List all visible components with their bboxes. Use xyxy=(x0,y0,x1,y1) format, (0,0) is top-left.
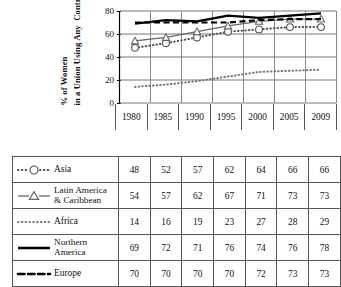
table-cell: 78 xyxy=(309,235,341,261)
legend-inner: Africa xyxy=(16,209,118,234)
legend-marker-open-triangle-solid xyxy=(16,189,52,203)
table-row: Europe70707070727373 xyxy=(13,261,341,287)
legend-label-line-2: America xyxy=(54,248,118,258)
x-axis-label-2000: 2000 xyxy=(242,104,274,130)
table-cell: 57 xyxy=(150,183,182,209)
legend-cell-africa: Africa xyxy=(13,209,119,235)
x-axis-label-1980: 1980 xyxy=(116,104,148,130)
table-cell: 72 xyxy=(245,261,277,287)
table-cell: 29 xyxy=(309,209,341,235)
table-cell: 66 xyxy=(309,157,341,183)
table-cell: 66 xyxy=(277,157,309,183)
x-axis-label-1985: 1985 xyxy=(148,104,180,130)
table-cell: 69 xyxy=(119,235,151,261)
series-line xyxy=(135,70,321,87)
table-cell: 73 xyxy=(309,183,341,209)
legend-marker-solid-thick xyxy=(16,241,52,255)
table-cell: 14 xyxy=(119,209,151,235)
table-cell: 27 xyxy=(245,209,277,235)
data-point-marker xyxy=(132,44,139,51)
table-cell: 70 xyxy=(119,261,151,287)
table-cell: 19 xyxy=(182,209,214,235)
data-point-marker xyxy=(318,24,325,31)
legend-cell-asia: Asia xyxy=(13,157,119,183)
table-row: Asia48525762646666 xyxy=(13,157,341,183)
table-cell: 62 xyxy=(182,183,214,209)
table-cell: 71 xyxy=(245,183,277,209)
legend-inner: Latin America& Caribbean xyxy=(16,183,118,208)
legend-label: Latin America& Caribbean xyxy=(52,186,118,205)
legend-cell-latin-america-caribbean: Latin America& Caribbean xyxy=(13,183,119,209)
table-cell: 71 xyxy=(182,235,214,261)
x-axis-label-1995: 1995 xyxy=(211,104,243,130)
table-cell: 67 xyxy=(214,183,246,209)
x-axis-label-1990: 1990 xyxy=(179,104,211,130)
x-axis-label-2009: 2009 xyxy=(305,104,336,130)
table-cell: 54 xyxy=(119,183,151,209)
table-cell: 76 xyxy=(277,235,309,261)
table-cell: 72 xyxy=(150,235,182,261)
table-cell: 73 xyxy=(277,261,309,287)
table-row: Africa14161923272829 xyxy=(13,209,341,235)
table-cell: 76 xyxy=(214,235,246,261)
table-row: NorthernAmerica69727176747678 xyxy=(13,235,341,261)
table-row: Latin America& Caribbean54576267717373 xyxy=(13,183,341,209)
legend-label-line-2: & Caribbean xyxy=(54,196,118,206)
table-cell: 28 xyxy=(277,209,309,235)
table-cell: 70 xyxy=(150,261,182,287)
legend-marker-open-circle-dotted xyxy=(16,163,52,177)
table-cell: 64 xyxy=(245,157,277,183)
legend-mark-wrap xyxy=(16,189,52,203)
series-africa xyxy=(135,70,321,87)
x-axis-labels: 1980198519901995200020052009 xyxy=(115,104,337,130)
table-header-row: 1980198519901995200020052009 xyxy=(13,131,341,157)
table-cell: 16 xyxy=(150,209,182,235)
legend-label: Europe xyxy=(52,269,118,279)
table-cell: 62 xyxy=(214,157,246,183)
table-cell: 70 xyxy=(214,261,246,287)
legend-label: Africa xyxy=(52,217,118,227)
data-point-marker xyxy=(256,26,263,33)
legend-cell-europe: Europe xyxy=(13,261,119,287)
table-cell: 74 xyxy=(245,235,277,261)
legend-mark-wrap xyxy=(16,163,52,177)
table-cell: 48 xyxy=(119,157,151,183)
x-axis-label-2005: 2005 xyxy=(274,104,306,130)
legend-cell-northern-america: NorthernAmerica xyxy=(13,235,119,261)
table-cell: 23 xyxy=(214,209,246,235)
table-cell: 73 xyxy=(309,261,341,287)
table-cell: 70 xyxy=(182,261,214,287)
data-table: 1980198519901995200020052009Asia48525762… xyxy=(12,131,341,287)
data-table-body: 1980198519901995200020052009Asia48525762… xyxy=(13,131,341,287)
legend-marker-dashed xyxy=(16,267,52,281)
data-point-marker xyxy=(287,24,294,31)
table-cell: 52 xyxy=(150,157,182,183)
table-cell: 73 xyxy=(277,183,309,209)
line-chart: % of Women in a Union Using Any Contrace… xyxy=(0,0,337,132)
legend-mark-wrap xyxy=(16,267,52,281)
legend-inner: Europe xyxy=(16,261,118,286)
legend-label: NorthernAmerica xyxy=(52,238,118,257)
legend-inner: Asia xyxy=(16,157,118,182)
legend-mark-wrap xyxy=(16,241,52,255)
legend-inner: NorthernAmerica xyxy=(16,235,118,260)
table-cell: 57 xyxy=(182,157,214,183)
legend-marker-dotted xyxy=(16,215,52,229)
legend-label: Asia xyxy=(52,165,118,175)
table-header-corner xyxy=(13,131,119,157)
legend-mark-wrap xyxy=(16,215,52,229)
